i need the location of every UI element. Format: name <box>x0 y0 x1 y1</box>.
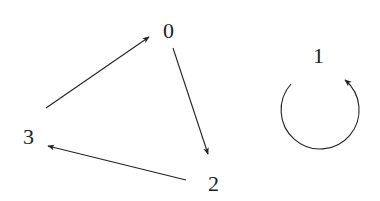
edge-2-to-3 <box>48 146 186 180</box>
graph-canvas: 0 1 2 3 <box>0 0 380 201</box>
node-2-label: 2 <box>208 171 219 196</box>
edge-0-to-2 <box>173 48 208 154</box>
node-1-label: 1 <box>313 43 324 68</box>
edge-1-self-loop <box>281 80 359 149</box>
edge-3-to-0 <box>46 37 149 108</box>
node-3-label: 3 <box>23 124 34 149</box>
node-0-label: 0 <box>163 18 174 43</box>
